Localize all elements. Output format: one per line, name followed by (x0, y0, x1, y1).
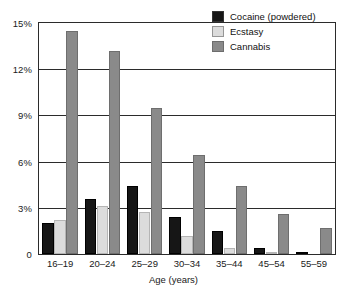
bar (296, 252, 308, 254)
legend-label: Cocaine (powdered) (230, 11, 316, 22)
legend-swatch-icon (212, 41, 224, 52)
x-tick-label: 25–29 (131, 258, 157, 269)
y-tick-label: 12% (13, 64, 32, 75)
x-tick-label: 16–19 (47, 258, 73, 269)
y-axis-tick-labels: 03%6%9%12%15% (0, 0, 36, 277)
bar (109, 51, 121, 254)
bar (42, 223, 54, 254)
x-axis-tick-labels: 16–1920–2425–2930–3435–4445–5455–59 (39, 258, 335, 274)
legend-label: Cannabis (230, 41, 270, 52)
bar (193, 155, 205, 254)
bar (278, 214, 290, 254)
bar-group (166, 23, 208, 254)
bar (266, 252, 278, 254)
bar-group (293, 23, 335, 254)
x-tick-label: 55–59 (301, 258, 327, 269)
bar (212, 231, 224, 254)
bar (151, 108, 163, 254)
x-tick-label: 30–34 (174, 258, 200, 269)
bar (254, 248, 266, 254)
bar (85, 199, 97, 254)
bar (181, 236, 193, 254)
bars-layer (39, 23, 335, 254)
y-tick-label: 15% (13, 18, 32, 29)
bar (236, 186, 248, 254)
y-tick-label: 0 (27, 249, 32, 260)
bar (224, 248, 236, 254)
bar-group (81, 23, 123, 254)
bar-group (124, 23, 166, 254)
bar (66, 31, 78, 254)
bar (169, 217, 181, 254)
legend-swatch-icon (212, 11, 224, 22)
bar (54, 220, 66, 254)
legend-item: Cocaine (powdered) (212, 11, 316, 22)
bar (139, 212, 151, 254)
x-tick-label: 35–44 (216, 258, 242, 269)
y-tick-label: 6% (18, 156, 32, 167)
bar (97, 206, 109, 255)
y-tick-label: 3% (18, 202, 32, 213)
legend-label: Ecstasy (230, 26, 263, 37)
x-axis-title: Age (years) (0, 274, 347, 285)
y-tick-label: 9% (18, 110, 32, 121)
chart-legend: Cocaine (powdered)EcstasyCannabis (212, 11, 316, 52)
bar (127, 186, 139, 254)
legend-item: Ecstasy (212, 26, 316, 37)
x-tick-label: 20–24 (89, 258, 115, 269)
bar-group (208, 23, 250, 254)
bar-chart: 03%6%9%12%15% 16–1920–2425–2930–3435–444… (0, 0, 347, 295)
bar (320, 228, 332, 254)
x-tick-label: 45–54 (258, 258, 284, 269)
bar-group (39, 23, 81, 254)
bar-group (250, 23, 292, 254)
legend-item: Cannabis (212, 41, 316, 52)
legend-swatch-icon (212, 26, 224, 37)
